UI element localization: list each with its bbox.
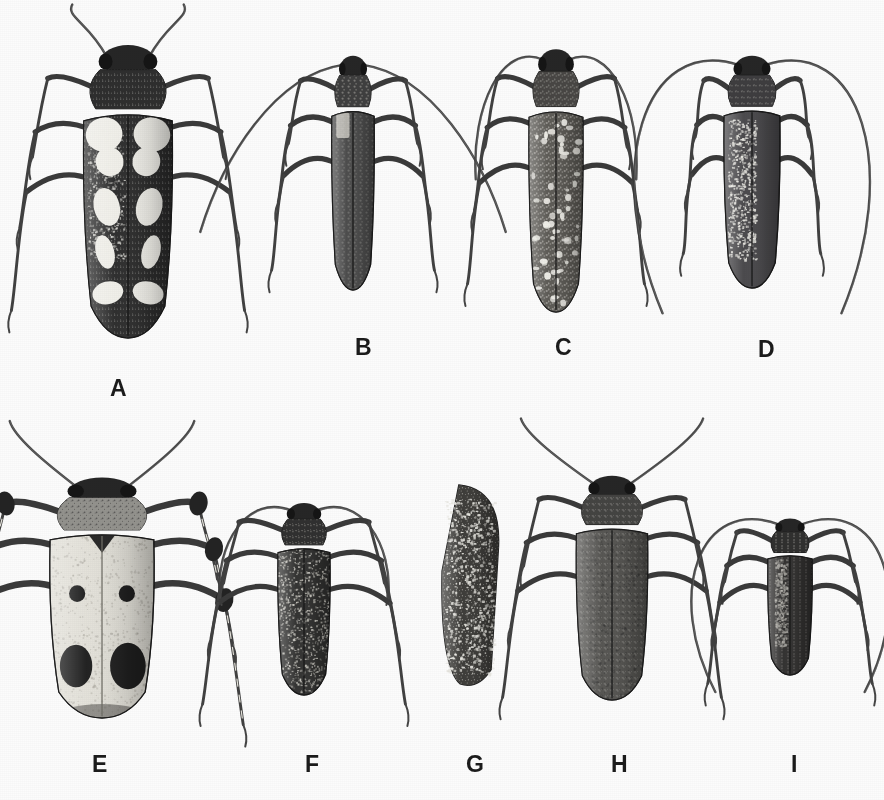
- body-i: [763, 518, 817, 679]
- panel-label-e: E: [92, 753, 107, 776]
- body-a: [78, 45, 178, 342]
- panel-label-i: I: [791, 753, 797, 776]
- body-c: [524, 49, 588, 316]
- panel-label-b: B: [355, 336, 372, 359]
- body-d: [724, 56, 780, 288]
- panel-label-f: F: [305, 753, 319, 776]
- panel-label-d: D: [758, 338, 775, 361]
- body-b: [327, 56, 379, 294]
- panel-label-c: C: [555, 336, 572, 359]
- panel-label-h: H: [611, 753, 628, 776]
- panel-label-a: A: [110, 377, 127, 400]
- panel-label-g: G: [466, 753, 484, 776]
- figure-plate: ABCDEFGHI: [0, 0, 884, 800]
- specimen-d: [593, 0, 884, 393]
- specimen-i: [637, 425, 884, 780]
- body-e: [47, 478, 157, 727]
